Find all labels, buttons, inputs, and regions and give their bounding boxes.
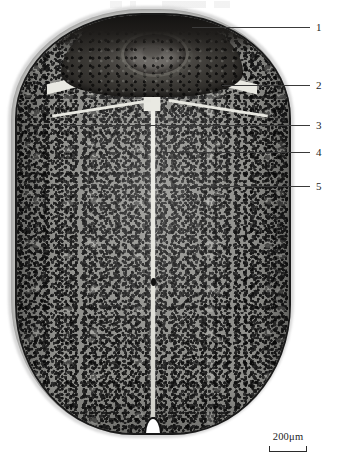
scale-bar-line — [269, 446, 307, 452]
specimen-image — [8, 6, 294, 438]
callout-number-1: 1 — [316, 22, 322, 33]
callout-leader-line-1 — [192, 27, 310, 28]
callout-number-2: 2 — [316, 80, 322, 91]
callout-leader-line-2 — [222, 85, 310, 86]
midline-suture — [151, 82, 154, 433]
callout-leader-line-4 — [163, 152, 310, 153]
midline-dark-spot — [151, 278, 156, 286]
scale-bar-label: 200μm — [262, 432, 314, 443]
callout-number-3: 3 — [316, 120, 322, 131]
callout-leader-line-5 — [196, 186, 310, 187]
callout-number-4: 4 — [316, 147, 322, 158]
callout-leader-line-3 — [64, 125, 310, 126]
callout-number-5: 5 — [316, 181, 322, 192]
specimen-outline — [15, 13, 291, 435]
micrograph-figure: 12345 200μm — [0, 0, 339, 463]
scale-bar: 200μm — [262, 432, 314, 452]
